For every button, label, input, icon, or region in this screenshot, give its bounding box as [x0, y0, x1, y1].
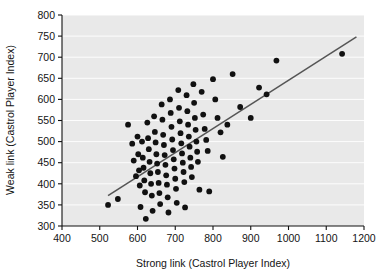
svg-text:600: 600	[37, 93, 55, 105]
svg-text:700: 700	[37, 51, 55, 63]
chart-canvas: 3003504004505005506006507007508004005006…	[0, 0, 390, 280]
svg-text:650: 650	[37, 72, 55, 84]
y-axis-title: Weak link (Castrol Player Index)	[4, 45, 16, 195]
scatter-chart: 3003504004505005506006507007508004005006…	[0, 0, 390, 280]
svg-text:350: 350	[37, 199, 55, 211]
svg-text:750: 750	[37, 30, 55, 42]
svg-text:400: 400	[53, 232, 71, 244]
svg-text:900: 900	[242, 232, 260, 244]
x-axis-title: Strong link (Castrol Player Index)	[136, 257, 290, 269]
svg-text:800: 800	[204, 232, 222, 244]
svg-text:550: 550	[37, 114, 55, 126]
svg-text:500: 500	[37, 135, 55, 147]
svg-text:800: 800	[37, 9, 55, 21]
svg-text:300: 300	[37, 220, 55, 232]
svg-text:1100: 1100	[315, 232, 338, 244]
svg-text:450: 450	[37, 156, 55, 168]
svg-text:500: 500	[91, 232, 109, 244]
svg-text:400: 400	[37, 178, 55, 190]
svg-text:1000: 1000	[277, 232, 301, 244]
svg-text:1200: 1200	[352, 232, 376, 244]
svg-text:700: 700	[166, 232, 184, 244]
svg-text:600: 600	[129, 232, 147, 244]
